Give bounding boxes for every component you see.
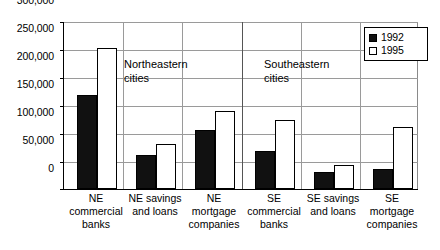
- x-label-line: and loans: [122, 205, 188, 218]
- gridline-200000: [64, 78, 418, 79]
- category-divider-4: [360, 22, 361, 189]
- legend-label-1992: 1992: [381, 32, 404, 43]
- y-tick-label: 300,000: [17, 0, 54, 5]
- bar-1995-ne-commercial-banks: [97, 48, 117, 189]
- bar-1992-ne-commercial-banks: [77, 95, 97, 189]
- bar-1995-ne-mortgage-companies: [215, 111, 235, 189]
- x-label-line: NE: [181, 192, 247, 205]
- x-label-line: banks: [63, 218, 129, 231]
- x-category-ne-savings-and-loans: NE savings and loans: [122, 192, 188, 218]
- annotation-northeastern-line2: cities: [124, 71, 188, 85]
- gridline-50000: [64, 162, 418, 163]
- legend-item-1995: 1995: [369, 44, 423, 57]
- tick-250000: [60, 50, 64, 51]
- legend: 1992 1995: [364, 27, 428, 61]
- x-label-line: and loans: [300, 205, 366, 218]
- bar-1995-se-savings-and-loans: [334, 165, 354, 189]
- x-category-se-commercial-banks: SE commercial banks: [241, 192, 307, 231]
- x-category-ne-mortgage-companies: NE mortgage companies: [181, 192, 247, 231]
- bar-1992-se-commercial-banks: [255, 151, 275, 189]
- x-label-line: SE: [359, 192, 425, 205]
- bar-1992-ne-savings-and-loans: [136, 155, 156, 189]
- x-label-line: NE savings: [122, 192, 188, 205]
- x-label-line: commercial: [63, 205, 129, 218]
- x-axis-labels: NE commercial banks NE savings and loans…: [63, 192, 418, 250]
- tick-100000: [60, 134, 64, 135]
- legend-label-1995: 1995: [381, 45, 404, 56]
- region-divider: [242, 22, 243, 189]
- bar-1992-ne-mortgage-companies: [195, 130, 215, 189]
- annotation-southeastern-line2: cities: [264, 71, 329, 85]
- x-label-line: banks: [241, 218, 307, 231]
- y-tick-label: 150,000: [17, 79, 54, 89]
- x-label-line: NE: [63, 192, 129, 205]
- x-category-se-savings-and-loans: SE savings and loans: [300, 192, 366, 218]
- bar-1995-se-mortgage-companies: [393, 127, 413, 189]
- x-label-line: companies: [359, 218, 425, 231]
- tick-300000: [60, 22, 64, 23]
- x-label-line: mortgage: [181, 205, 247, 218]
- y-tick-label: 100,000: [17, 107, 54, 117]
- category-divider-1: [123, 22, 124, 189]
- gridline-300000: [64, 22, 418, 23]
- legend-swatch-1992-icon: [369, 34, 377, 42]
- y-tick-label: 0: [48, 163, 54, 173]
- x-label-line: mortgage: [359, 205, 425, 218]
- legend-swatch-1995-icon: [369, 47, 377, 55]
- category-divider-2: [182, 22, 183, 189]
- annotation-southeastern-line1: Southeastern: [264, 57, 329, 71]
- y-tick-label: 200,000: [17, 51, 54, 61]
- bar-chart: 300,000 250,000 200,000 150,000 100,000 …: [0, 0, 440, 250]
- x-category-ne-commercial-banks: NE commercial banks: [63, 192, 129, 231]
- gridline-150000: [64, 106, 418, 107]
- bar-1992-se-mortgage-companies: [373, 169, 393, 189]
- tick-200000: [60, 78, 64, 79]
- annotation-northeastern-line1: Northeastern: [124, 57, 188, 71]
- x-label-line: SE: [241, 192, 307, 205]
- bar-1995-se-commercial-banks: [275, 120, 295, 189]
- y-axis-labels: 300,000 250,000 200,000 150,000 100,000 …: [0, 0, 62, 250]
- annotation-northeastern: Northeastern cities: [124, 57, 188, 85]
- tick-0: [60, 189, 64, 190]
- y-tick-label: 250,000: [17, 23, 54, 33]
- x-category-se-mortgage-companies: SE mortgage companies: [359, 192, 425, 231]
- gridline-100000: [64, 134, 418, 135]
- y-tick-label: 50,000: [22, 135, 54, 145]
- tick-50000: [60, 162, 64, 163]
- bar-1995-ne-savings-and-loans: [156, 144, 176, 189]
- x-label-line: SE savings: [300, 192, 366, 205]
- tick-150000: [60, 106, 64, 107]
- bar-1992-se-savings-and-loans: [314, 172, 334, 189]
- category-divider-3: [301, 22, 302, 189]
- x-label-line: companies: [181, 218, 247, 231]
- annotation-southeastern: Southeastern cities: [264, 57, 329, 85]
- x-label-line: commercial: [241, 205, 307, 218]
- legend-item-1992: 1992: [369, 31, 423, 44]
